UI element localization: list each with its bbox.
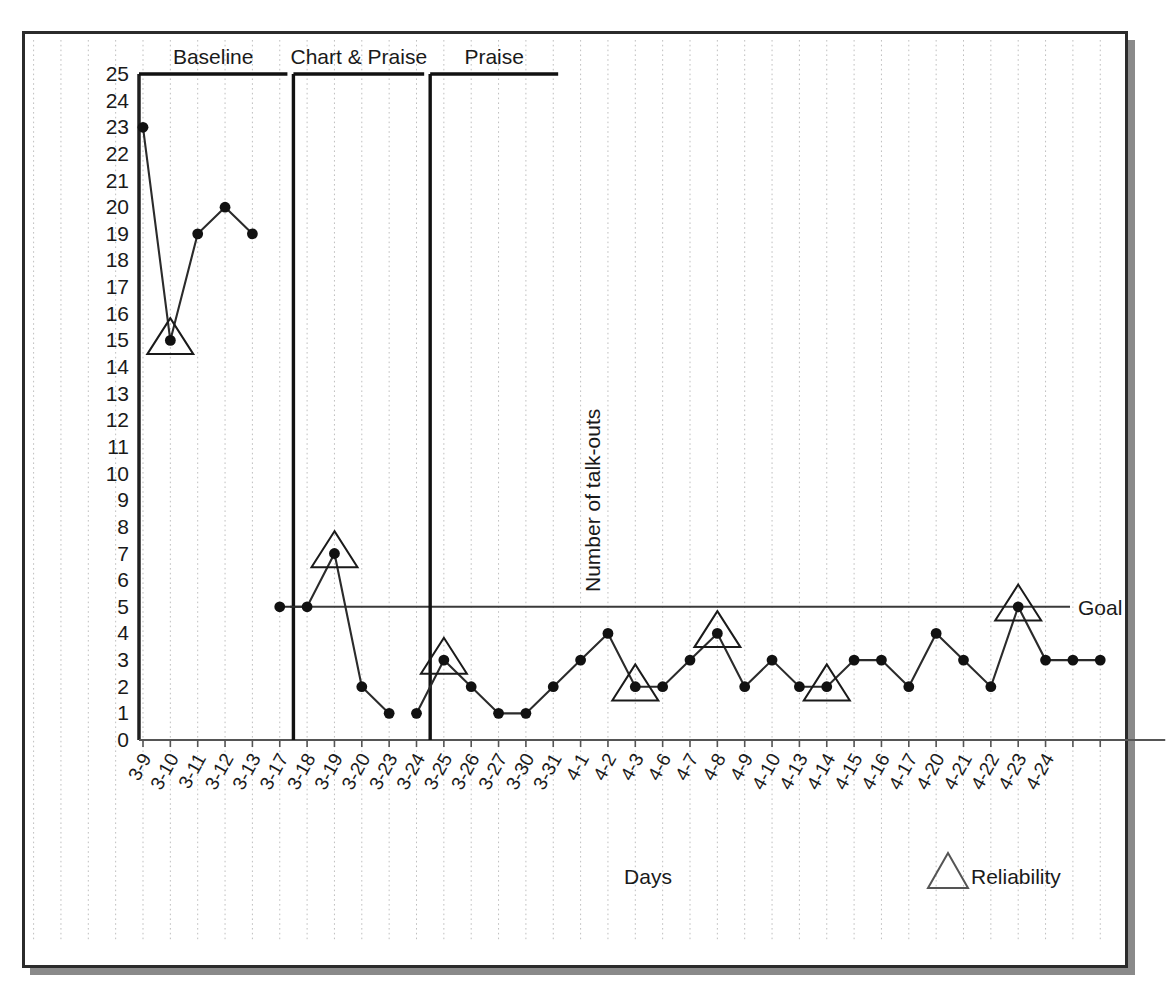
legend-reliability-label: Reliability [971, 865, 1061, 888]
data-point-marker [192, 228, 203, 239]
x-tick-label: 4-22 [967, 750, 1004, 793]
y-tick-label: 5 [117, 595, 129, 618]
data-point-marker [985, 681, 996, 692]
data-point-marker [438, 655, 449, 666]
data-point-marker [521, 708, 532, 719]
y-tick-label: 12 [106, 408, 129, 431]
y-tick-label: 10 [106, 462, 129, 485]
y-tick-label: 15 [106, 328, 129, 351]
figure-root: 0123456789101112131415161718192021222324… [0, 0, 1170, 997]
x-tick-label: 4-1 [561, 750, 593, 784]
y-tick-label: 0 [117, 728, 129, 751]
data-point-marker [903, 681, 914, 692]
goal-label: Goal [1078, 596, 1122, 619]
y-tick-label: 1 [117, 701, 129, 724]
data-point-marker [821, 681, 832, 692]
data-point-marker [575, 655, 586, 666]
y-tick-label: 9 [117, 488, 129, 511]
x-tick-label: 4-16 [857, 750, 894, 793]
data-point-marker [247, 228, 258, 239]
x-tick-label: 4-15 [830, 750, 867, 793]
data-point-marker [165, 335, 176, 346]
data-point-marker [411, 708, 422, 719]
x-tick-label: 3-31 [529, 750, 566, 793]
data-point-marker [220, 202, 231, 213]
data-point-marker [466, 681, 477, 692]
data-point-marker [767, 655, 778, 666]
y-tick-label: 16 [106, 302, 129, 325]
data-point-marker [1040, 655, 1051, 666]
phase-label: Praise [464, 45, 524, 68]
x-tick-label: 4-17 [884, 750, 921, 793]
data-point-marker [138, 122, 149, 133]
data-point-marker [548, 681, 559, 692]
data-point-marker [493, 708, 504, 719]
x-tick-label: 4-13 [775, 750, 812, 793]
data-point-marker [657, 681, 668, 692]
x-tick-label: 4-23 [994, 750, 1031, 793]
x-tick-label: 3-30 [502, 750, 539, 793]
x-tick-label: 3-19 [310, 750, 347, 793]
x-axis-title: Days [624, 865, 672, 888]
x-tick-label: 3-24 [392, 749, 429, 793]
y-tick-label: 7 [117, 542, 129, 565]
data-point-marker [603, 628, 614, 639]
x-tick-label: 3-17 [255, 750, 292, 793]
x-tick-label: 3-27 [474, 750, 511, 793]
data-point-marker [630, 681, 641, 692]
data-point-marker [384, 708, 395, 719]
x-tick-label: 4-20 [912, 750, 949, 793]
data-point-marker [274, 601, 285, 612]
y-tick-label: 20 [106, 195, 129, 218]
x-tick-label: 4-14 [802, 749, 839, 793]
data-point-marker [849, 655, 860, 666]
x-tick-label: 4-2 [589, 750, 621, 784]
data-point-marker [329, 548, 340, 559]
x-tick-label: 3-25 [420, 750, 457, 793]
y-tick-label: 24 [106, 89, 130, 112]
y-axis-title: Number of talk-outs [581, 409, 604, 592]
x-tick-label: 4-3 [616, 750, 648, 784]
data-point-marker [302, 601, 313, 612]
y-tick-label: 21 [106, 169, 129, 192]
y-tick-label: 17 [106, 275, 129, 298]
x-tick-label: 4-7 [671, 750, 703, 784]
y-tick-label: 8 [117, 515, 129, 538]
data-point-marker [685, 655, 696, 666]
y-tick-label: 23 [106, 115, 129, 138]
data-point-marker [712, 628, 723, 639]
line-chart: 0123456789101112131415161718192021222324… [0, 0, 1170, 997]
x-tick-label: 3-10 [146, 750, 183, 793]
y-tick-label: 19 [106, 222, 129, 245]
y-tick-label: 14 [106, 355, 130, 378]
y-tick-label: 2 [117, 675, 129, 698]
x-tick-label: 4-6 [643, 750, 675, 784]
data-point-marker [931, 628, 942, 639]
y-tick-label: 4 [117, 621, 129, 644]
x-tick-label: 3-18 [283, 750, 320, 793]
x-tick-label: 4-21 [939, 750, 976, 793]
x-tick-label: 4-24 [1021, 749, 1058, 793]
y-tick-label: 3 [117, 648, 129, 671]
data-point-marker [1095, 655, 1106, 666]
data-point-marker [1068, 655, 1079, 666]
x-tick-label: 3-12 [201, 750, 238, 793]
x-tick-label: 4-8 [698, 750, 730, 784]
data-line-segment [417, 607, 1101, 714]
data-point-marker [739, 681, 750, 692]
data-point-marker [794, 681, 805, 692]
x-tick-label: 3-23 [365, 750, 402, 793]
y-tick-label: 11 [107, 435, 129, 458]
phase-label: Chart & Praise [291, 45, 428, 68]
x-tick-label: 3-20 [337, 750, 374, 793]
x-tick-label: 3-26 [447, 750, 484, 793]
x-tick-label: 4-10 [748, 750, 785, 793]
data-point-marker [958, 655, 969, 666]
x-tick-label: 3-13 [228, 750, 265, 793]
y-tick-label: 25 [106, 62, 129, 85]
y-tick-label: 13 [106, 382, 129, 405]
y-tick-label: 18 [106, 248, 129, 271]
data-point-marker [356, 681, 367, 692]
y-tick-label: 6 [117, 568, 129, 591]
y-tick-label: 22 [106, 142, 129, 165]
